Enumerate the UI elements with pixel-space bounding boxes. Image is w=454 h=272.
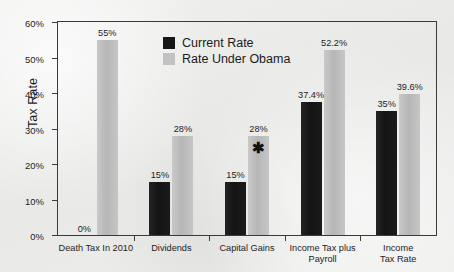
bar-current-rate: 15%	[149, 182, 170, 235]
x-axis-category-label: Capital Gains	[219, 243, 274, 254]
y-axis-tick-label: 0%	[30, 231, 44, 242]
bar-current-rate: 35%	[376, 111, 397, 235]
x-axis-category-label: Income Tax plus Payroll	[289, 243, 355, 264]
legend-label-current-rate: Current Rate	[182, 36, 254, 50]
legend-item-rate-under-obama: Rate Under Obama	[163, 52, 290, 66]
bar-value-label: 35%	[377, 99, 395, 109]
y-axis-tick: 60%	[52, 22, 58, 23]
y-axis-tick: 10%	[52, 200, 58, 201]
y-axis-tick: 20%	[52, 164, 58, 165]
bar-rate-under-obama: 55%	[97, 40, 118, 235]
y-axis-title: Tax Rate	[26, 48, 40, 158]
chart-legend: Current Rate Rate Under Obama	[163, 36, 290, 66]
asterisk-annotation: ✱	[252, 140, 265, 155]
y-axis-tick-label: 60%	[25, 18, 44, 29]
gray-swatch-icon	[163, 53, 175, 65]
x-axis-tick	[285, 235, 286, 241]
bar-rate-under-obama: 28%	[172, 136, 193, 235]
bar-value-label: 52.2%	[321, 38, 347, 48]
bar-current-rate: 37.4%	[301, 102, 322, 235]
bar-value-label-zero: 0%	[78, 224, 91, 234]
bar-value-label: 37.4%	[298, 90, 324, 100]
bar-value-label: 28%	[174, 124, 192, 134]
bar-rate-under-obama: 28%✱	[248, 136, 269, 235]
y-axis-tick-label: 30%	[25, 124, 44, 135]
bar-value-label: 15%	[151, 170, 169, 180]
y-axis-tick-label: 10%	[25, 195, 44, 206]
y-axis-tick: 0%	[52, 235, 58, 236]
y-axis-tick-label: 40%	[25, 89, 44, 100]
bar-value-label: 15%	[226, 170, 244, 180]
chart-canvas: Tax Rate 0%10%20%30%40%50%60%Death Tax I…	[0, 0, 454, 272]
x-axis-category-label: Death Tax In 2010	[59, 243, 133, 254]
bar-rate-under-obama: 39.6%	[399, 94, 420, 235]
bar-value-label: 28%	[249, 124, 267, 134]
y-axis-tick: 40%	[52, 93, 58, 94]
x-axis-tick	[360, 235, 361, 241]
bar-rate-under-obama: 52.2%	[324, 50, 345, 235]
bar-current-rate: 15%	[225, 182, 246, 235]
bar-value-label: 55%	[98, 28, 116, 38]
x-axis-category-label: Dividends	[151, 243, 191, 254]
black-swatch-icon	[163, 37, 175, 49]
y-axis-tick: 50%	[52, 58, 58, 59]
legend-label-rate-under-obama: Rate Under Obama	[182, 52, 290, 66]
y-axis-tick: 30%	[52, 129, 58, 130]
x-axis-tick	[209, 235, 210, 241]
x-axis-tick	[134, 235, 135, 241]
legend-item-current-rate: Current Rate	[163, 36, 290, 50]
x-axis-category-label: Income Tax Rate	[379, 243, 417, 264]
y-axis-tick-label: 20%	[25, 160, 44, 171]
bar-value-label: 39.6%	[397, 82, 423, 92]
y-axis-tick-label: 50%	[25, 53, 44, 64]
